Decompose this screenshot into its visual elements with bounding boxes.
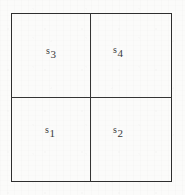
- quadrant-label-subscript: 3: [51, 48, 57, 60]
- quadrant-label-base: s: [113, 44, 117, 55]
- subdivided-square: [11, 13, 172, 182]
- quadrant-label-base: s: [46, 45, 50, 56]
- quadrant-label-top-left: s3: [46, 45, 56, 56]
- diagram-canvas: s3 s4 s1 s2: [0, 0, 185, 195]
- quadrant-label-subscript: 4: [118, 47, 124, 59]
- quadrant-label-bottom-right: s2: [113, 124, 123, 135]
- quadrant-label-top-right: s4: [113, 44, 123, 55]
- quadrant-label-subscript: 1: [50, 127, 56, 139]
- horizontal-divider-line: [11, 97, 172, 98]
- quadrant-label-bottom-left: s1: [45, 124, 55, 135]
- quadrant-label-subscript: 2: [118, 127, 124, 139]
- quadrant-label-base: s: [45, 124, 49, 135]
- quadrant-label-base: s: [113, 124, 117, 135]
- square-top-edge: [11, 13, 172, 14]
- square-bottom-edge: [11, 181, 172, 182]
